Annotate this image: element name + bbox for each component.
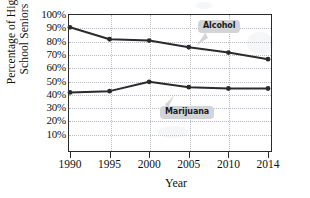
- data-point-marijuana-2000: [147, 79, 152, 84]
- data-point-alcohol-1995: [107, 37, 112, 42]
- chart-figure: Percentage of High School Seniors 100%90…: [0, 0, 310, 198]
- data-point-marijuana-2005: [186, 85, 191, 90]
- series-label-marijuana: Marijuana: [160, 106, 214, 119]
- callout-tail-icon: [196, 31, 210, 47]
- data-point-marijuana-2010: [226, 86, 231, 91]
- x-axis-title-text: Year: [123, 176, 187, 190]
- series-label-alcohol: Alcohol: [198, 20, 240, 33]
- data-point-alcohol-1990: [68, 25, 73, 30]
- data-point-alcohol-2014: [266, 57, 271, 62]
- data-point-alcohol-2005: [186, 45, 191, 50]
- data-point-marijuana-1990: [68, 90, 73, 95]
- data-point-alcohol-2000: [147, 38, 152, 43]
- series-line-marijuana: [70, 82, 268, 93]
- x-axis-title: Year: [0, 176, 310, 191]
- data-point-alcohol-2010: [226, 50, 231, 55]
- data-point-marijuana-1995: [107, 89, 112, 94]
- data-point-marijuana-2014: [266, 86, 271, 91]
- series-lines: [0, 0, 310, 198]
